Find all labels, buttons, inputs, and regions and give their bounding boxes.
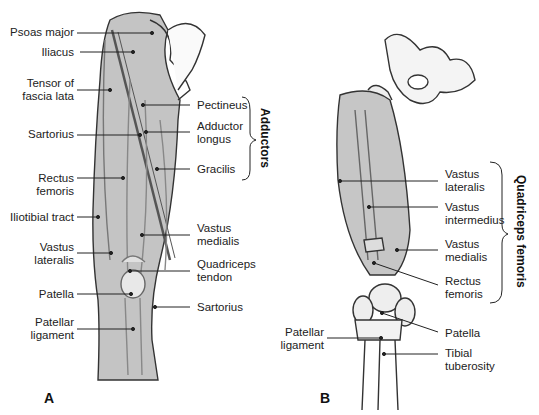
label-tibial-tuberosity: Tibial tuberosity: [445, 347, 495, 373]
label-rectus-femoris-a: Rectus femoris: [2, 172, 74, 198]
label-vastus-medialis-b: Vastus medialis: [445, 238, 487, 264]
label-vastus-lateralis-b: Vastus lateralis: [445, 168, 485, 194]
label-iliotibial-tract: Iliotibial tract: [2, 211, 74, 224]
label-psoas-major: Psoas major: [2, 26, 74, 39]
label-patella-a: Patella: [2, 288, 74, 301]
panel-letter-b: B: [320, 390, 330, 406]
label-vastus-lateralis-a: Vastus lateralis: [2, 241, 74, 267]
label-adductor-longus: Adductor longus: [197, 120, 243, 146]
panel-letter-a: A: [44, 390, 54, 406]
label-rectus-femoris-b: Rectus femoris: [445, 275, 483, 301]
label-sartorius-a-right: Sartorius: [197, 301, 243, 314]
label-gracilis: Gracilis: [197, 163, 235, 176]
thigh-anterior-drawing: [93, 12, 205, 380]
label-quadriceps-tendon: Quadriceps tendon: [197, 258, 256, 284]
label-patellar-ligament-b: Patellar ligament: [268, 326, 324, 352]
label-sartorius-a: Sartorius: [2, 128, 74, 141]
label-iliacus: Iliacus: [2, 46, 74, 59]
label-vastus-medialis-a: Vastus medialis: [197, 222, 239, 248]
label-pectineus: Pectineus: [197, 99, 248, 112]
label-tensor-fascia-lata: Tensor of fascia lata: [2, 77, 74, 103]
group-label-adductors: Adductors: [258, 108, 272, 168]
label-patella-b: Patella: [445, 327, 480, 340]
label-vastus-intermedius: Vastus intermedius: [445, 201, 504, 227]
label-patellar-ligament-a: Patellar ligament: [2, 316, 74, 342]
group-label-quadriceps-femoris: Quadriceps femoris: [514, 175, 528, 288]
